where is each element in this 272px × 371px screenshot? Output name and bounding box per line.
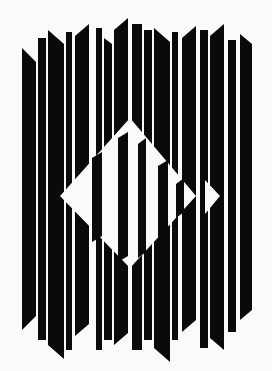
stripe-column (240, 34, 252, 320)
stripe-column (228, 40, 236, 332)
stripe-column (38, 38, 46, 340)
stripe-column (210, 24, 224, 350)
op-art-composition (0, 0, 272, 371)
diamond-inner-bar (158, 160, 168, 240)
diamond-inner-bar (92, 152, 102, 242)
diamond-inner-bar (118, 132, 128, 262)
diamond-inner-bar (176, 178, 184, 218)
diamond-inner-bar (138, 138, 146, 258)
stripe-column (182, 26, 196, 332)
stripe-column (22, 48, 36, 330)
